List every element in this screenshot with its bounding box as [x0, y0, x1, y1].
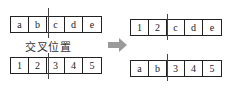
gene-cell: 3 — [167, 61, 185, 76]
crossover-label: 交叉位置 — [25, 38, 71, 54]
after-bottom-chromosome: a b 3 4 5 — [130, 60, 222, 77]
before-top-chromosome: a b c d e — [10, 16, 102, 33]
gene-cell: c — [167, 20, 185, 35]
gene-cell: b — [29, 17, 47, 32]
gene-cell: 4 — [65, 58, 83, 73]
gene-cell: e — [83, 17, 101, 32]
after-top-chromosome: 1 2 c d e — [130, 19, 222, 36]
gene-cell: 5 — [203, 61, 221, 76]
gene-cell: c — [47, 17, 65, 32]
gene-cell: 5 — [83, 58, 101, 73]
gene-cell: 3 — [47, 58, 65, 73]
before-bottom-chromosome: 1 2 3 4 5 — [10, 57, 102, 74]
arrow-right-icon — [108, 38, 128, 52]
gene-cell: e — [203, 20, 221, 35]
gene-cell: 2 — [29, 58, 47, 73]
gene-cell: a — [11, 17, 29, 32]
crossover-line — [167, 14, 168, 40]
gene-cell: 2 — [149, 20, 167, 35]
gene-cell: d — [185, 20, 203, 35]
gene-cell: 4 — [185, 61, 203, 76]
gene-cell: b — [149, 61, 167, 76]
gene-cell: 1 — [131, 20, 149, 35]
gene-cell: d — [65, 17, 83, 32]
gene-cell: a — [131, 61, 149, 76]
crossover-line — [167, 54, 168, 81]
crossover-line — [48, 8, 49, 38]
crossover-line — [48, 53, 49, 79]
gene-cell: 1 — [11, 58, 29, 73]
